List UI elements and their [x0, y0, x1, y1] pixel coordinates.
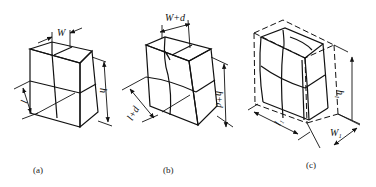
label-b-width: W+d	[165, 12, 186, 23]
panel-c: h₁ l₁ W₁ (c)	[248, 20, 360, 170]
label-c-length: l₁	[272, 117, 285, 127]
caption-a: (a)	[33, 165, 43, 175]
label-a-length: l	[18, 99, 29, 105]
panel-b: W+d h+d l+d (b)	[122, 12, 233, 175]
label-a-height: h	[98, 88, 109, 93]
caption-c: (c)	[306, 160, 316, 170]
label-c-width: W₁	[330, 127, 342, 138]
panel-a: W h l (a)	[14, 27, 112, 175]
caption-b: (b)	[163, 165, 174, 175]
label-c-height: h₁	[335, 90, 346, 98]
figure: W h l (a) W+d h+d l+d (b)	[0, 0, 376, 187]
label-b-length: l+d	[125, 103, 142, 122]
label-a-width: W	[57, 27, 67, 38]
label-b-height: h+d	[214, 91, 225, 109]
